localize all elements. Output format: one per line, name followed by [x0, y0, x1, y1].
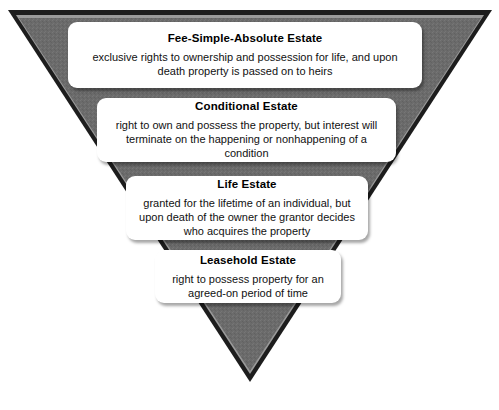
level-card-leasehold[interactable]: Leasehold Estate right to possess proper… — [155, 250, 341, 303]
level-title: Fee-Simple-Absolute Estate — [78, 31, 412, 45]
level-title: Conditional Estate — [107, 99, 386, 113]
level-card-fee-simple-absolute[interactable]: Fee-Simple-Absolute Estate exclusive rig… — [68, 22, 422, 88]
level-title: Leasehold Estate — [165, 253, 331, 267]
level-description: exclusive rights to ownership and posses… — [78, 50, 412, 78]
level-description: granted for the lifetime of an individua… — [136, 196, 358, 238]
level-card-life-estate[interactable]: Life Estate granted for the lifetime of … — [126, 176, 368, 240]
level-description: right to own and possess the property, b… — [107, 118, 386, 160]
level-title: Life Estate — [136, 177, 358, 191]
level-card-conditional[interactable]: Conditional Estate right to own and poss… — [97, 98, 396, 162]
diagram-canvas: Fee-Simple-Absolute Estate exclusive rig… — [0, 0, 499, 410]
level-description: right to possess property for an agreed-… — [165, 272, 331, 300]
